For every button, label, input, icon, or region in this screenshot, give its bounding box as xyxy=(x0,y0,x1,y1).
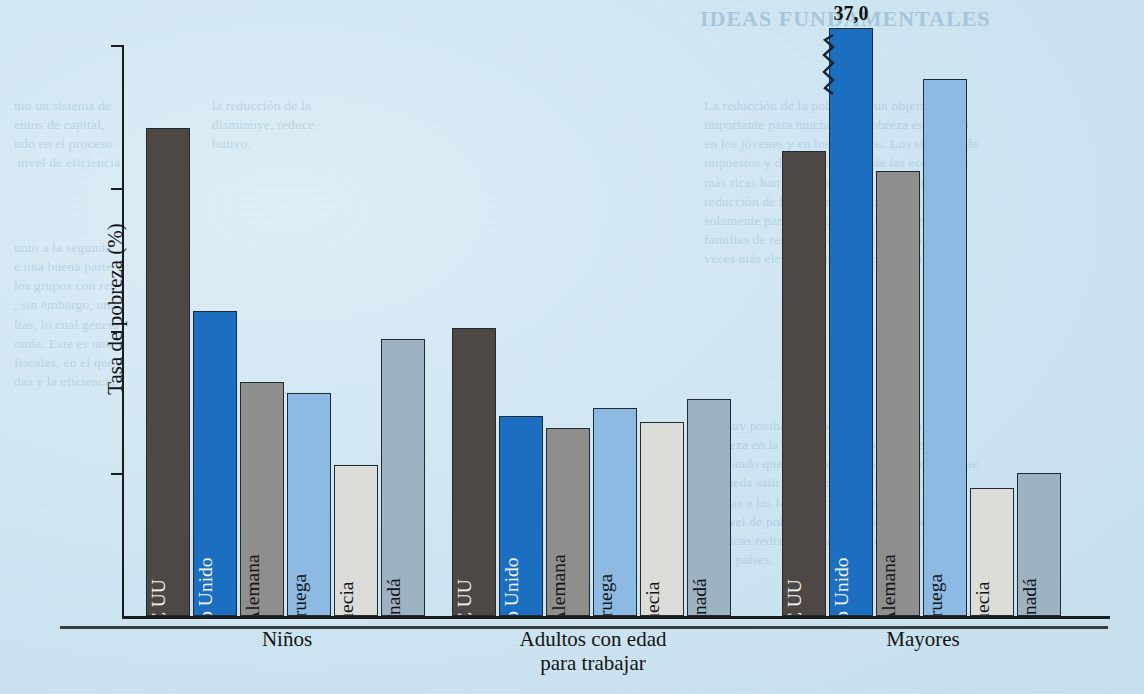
bar[interactable]: Suecia xyxy=(334,465,378,616)
bar[interactable]: Canadá xyxy=(687,399,731,616)
bar[interactable]: Noruega xyxy=(287,393,331,616)
group-label: Niños xyxy=(146,628,428,652)
bar-country-label: Reino Unido xyxy=(196,557,216,616)
bar[interactable]: EE UU xyxy=(146,128,190,616)
bar[interactable]: Reino Unido xyxy=(499,416,543,616)
bar[interactable]: Reino Unido xyxy=(829,28,873,616)
axis-break-icon xyxy=(820,34,836,96)
bar-country-label: R.F. Alemana xyxy=(243,554,263,616)
bar[interactable]: Noruega xyxy=(923,79,967,616)
bar-country-label: Noruega xyxy=(926,573,946,616)
bar-country-label: Canadá xyxy=(384,578,404,616)
bar-country-label: Canadá xyxy=(690,578,710,616)
bar[interactable]: Noruega xyxy=(593,408,637,616)
bar[interactable]: R.F. Alemana xyxy=(876,171,920,616)
y-tick-mark xyxy=(111,45,122,47)
bar-country-label: Suecia xyxy=(337,581,357,616)
bar-country-label: R.F. Alemana xyxy=(879,554,899,616)
bar[interactable]: R.F. Alemana xyxy=(240,382,284,616)
bar[interactable]: Reino Unido xyxy=(193,311,237,616)
bar[interactable]: EE UU xyxy=(452,328,496,616)
bar-country-label: EE UU xyxy=(785,579,805,616)
bar-value-label: 37,0 xyxy=(834,2,869,25)
chart-plot-area: Tasa de pobreza (%) 2015105 EE UUReino U… xyxy=(122,45,1110,618)
bar-country-label: Suecia xyxy=(973,581,993,616)
bar-country-label: EE UU xyxy=(149,579,169,616)
bar[interactable]: Canadá xyxy=(1017,473,1061,616)
bar[interactable]: Suecia xyxy=(970,488,1014,616)
bar[interactable]: Suecia xyxy=(640,422,684,616)
group-label: Mayores xyxy=(782,628,1064,652)
bar-country-label: Noruega xyxy=(290,573,310,616)
bar-country-label: Reino Unido xyxy=(502,557,522,616)
bar[interactable]: EE UU xyxy=(782,151,826,616)
y-tick-mark xyxy=(111,331,122,333)
bar[interactable]: R.F. Alemana xyxy=(546,428,590,616)
bar-country-label: Canadá xyxy=(1020,578,1040,616)
y-tick-mark xyxy=(111,188,122,190)
bar[interactable]: Canadá xyxy=(381,339,425,616)
bar-group: EE UUReino UnidoR.F. AlemanaNoruegaSueci… xyxy=(146,45,428,616)
bar-country-label: Reino Unido xyxy=(832,557,852,616)
bar-country-label: Noruega xyxy=(596,573,616,616)
bar-group: EE UUReino UnidoR.F. AlemanaNoruegaSueci… xyxy=(452,45,734,616)
y-tick-mark xyxy=(111,473,122,475)
bar-group: EE UUReino Unido37,0R.F. AlemanaNoruegaS… xyxy=(782,45,1064,616)
x-axis-line xyxy=(122,616,1110,619)
bar-country-label: Suecia xyxy=(643,581,663,616)
page-rule xyxy=(60,626,1108,629)
y-axis-label: Tasa de pobreza (%) xyxy=(103,223,128,395)
group-label: Adultos con edad para trabajar xyxy=(452,628,734,675)
bar-country-label: EE UU xyxy=(455,579,475,616)
bar-country-label: R.F. Alemana xyxy=(549,554,569,616)
